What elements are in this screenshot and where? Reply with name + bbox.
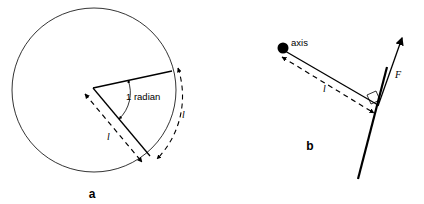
physics-diagram-svg: 1 radian l l a axis l <box>0 0 424 204</box>
radius-length-arrow <box>85 94 142 162</box>
arc-length-label: l <box>182 109 185 120</box>
lever-arm-length-arrow <box>282 57 374 113</box>
panel-letter-b: b <box>306 139 313 153</box>
radius-upper-line <box>93 71 172 88</box>
rod-line <box>358 67 387 179</box>
axis-label: axis <box>291 37 308 48</box>
radius-length-label: l <box>107 131 110 142</box>
panel-letter-a: a <box>89 187 96 201</box>
lever-arm-label: l <box>323 83 326 94</box>
panel-a: 1 radian l l a <box>12 8 185 201</box>
panel-b: axis l F b <box>278 37 403 179</box>
force-label: F <box>394 69 402 80</box>
angle-label: 1 radian <box>126 91 160 102</box>
arc-length-arrow <box>157 68 183 159</box>
lever-arm-line <box>285 51 378 105</box>
figure-root: 1 radian l l a axis l <box>0 0 424 204</box>
